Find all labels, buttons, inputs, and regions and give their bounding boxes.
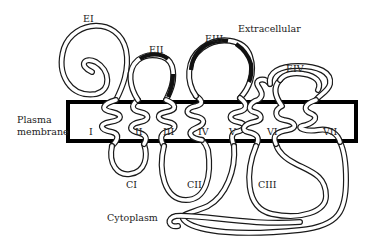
label-loop-cii: CII (187, 179, 202, 190)
label-tm-vii: VII (322, 126, 338, 137)
label-extracellular: Extracellular (238, 23, 301, 34)
label-tm-ii: II (135, 126, 143, 137)
label-membrane: membrane (17, 126, 69, 137)
label-tm-v: V (228, 126, 236, 137)
label-loop-ci: CI (126, 179, 137, 190)
label-loop-eiii: EIII (205, 33, 223, 44)
label-loop-ciii: CIII (258, 179, 277, 190)
label-loop-eii: EII (149, 44, 164, 55)
label-tm-vi: VI (266, 126, 278, 137)
membrane-topology-diagram: Extracellular Plasma membrane Cytoplasm … (0, 0, 372, 246)
label-loop-ei: EI (83, 13, 94, 24)
eiii-highlight-segment (191, 41, 228, 70)
label-tm-i: I (89, 126, 93, 137)
label-cytoplasm: Cytoplasm (107, 212, 158, 223)
label-plasma: Plasma (17, 114, 52, 125)
label-loop-eiv: EIV (286, 63, 304, 74)
label-tm-iv: IV (198, 126, 209, 137)
label-tm-iii: III (163, 126, 175, 137)
